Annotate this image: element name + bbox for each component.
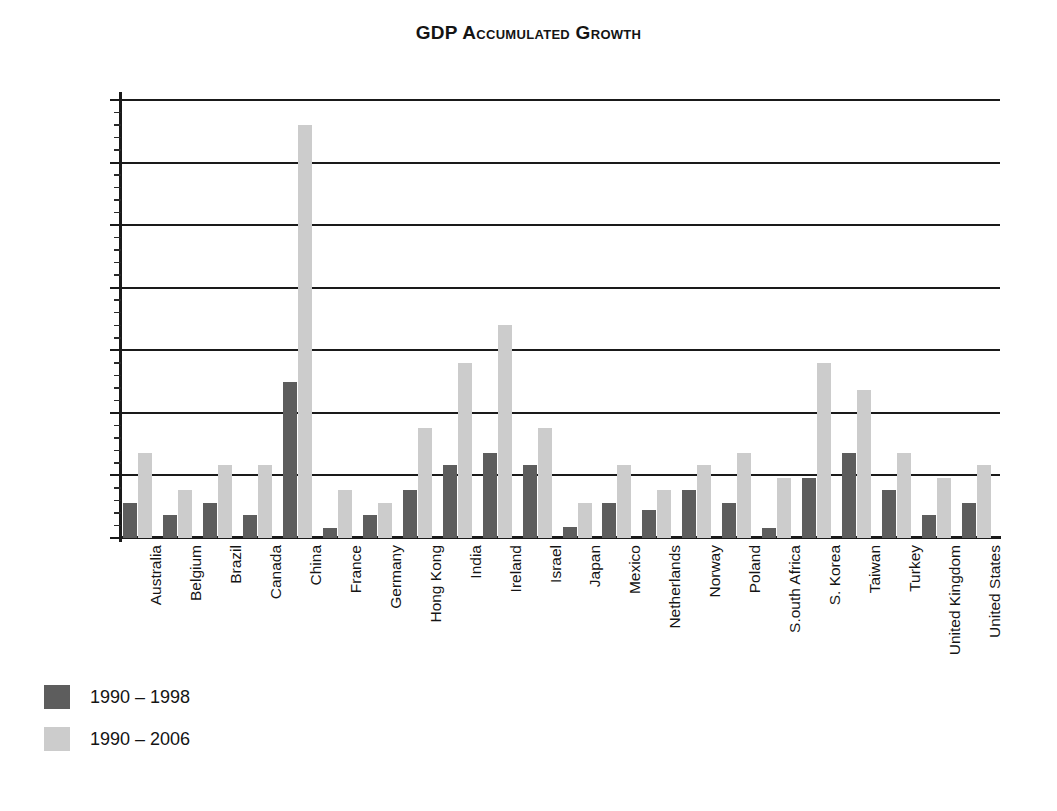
x-axis-tick-label: India [467,545,485,579]
bars-layer [121,100,1000,538]
bar [418,428,432,538]
bar [203,503,217,538]
y-axis-minor-tick [114,249,121,251]
x-axis-tick-label: Hong Kong [427,545,445,623]
y-axis-minor-tick [114,174,121,176]
bar [737,453,751,538]
bar [218,465,232,538]
bar [642,510,656,538]
y-axis-minor-tick [114,312,121,314]
bar [538,428,552,538]
bar [897,453,911,538]
y-axis-minor-tick [114,525,121,527]
y-axis-minor-tick [114,437,121,439]
bar [243,515,257,538]
bar-group [201,100,241,538]
bar [178,490,192,538]
bar [403,490,417,538]
x-axis-tick-label: Belgium [187,545,205,601]
bar-group [600,100,640,538]
bar [578,503,592,538]
bar [817,363,831,538]
bar [802,478,816,538]
y-axis-minor-tick [114,462,121,464]
bar-group [760,100,800,538]
y-axis-minor-tick [114,375,121,377]
bar [842,453,856,538]
x-axis-tick-label: Germany [387,545,405,609]
bar [882,490,896,538]
y-axis-major-tick [110,474,121,476]
bar [363,515,377,538]
bar [523,465,537,538]
bar-group [361,100,401,538]
y-axis-minor-tick [114,325,121,327]
y-axis-minor-tick [114,187,121,189]
bar-group [840,100,880,538]
legend-label: 1990 – 1998 [90,687,190,708]
y-axis-minor-tick [114,112,121,114]
bar-group [521,100,561,538]
bar-group [920,100,960,538]
bar-group [720,100,760,538]
chart-legend: 1990 – 19981990 – 2006 [44,676,190,760]
bar-group [441,100,481,538]
y-axis-major-tick [110,287,121,289]
y-axis-minor-tick [114,274,121,276]
y-axis-major-tick [110,349,121,351]
bar-group [161,100,201,538]
plot-area [121,100,1000,538]
bar [378,503,392,538]
y-axis-major-tick [110,99,121,101]
bar-group [640,100,680,538]
bar [922,515,936,538]
y-axis-minor-tick [114,137,121,139]
y-axis-minor-tick [114,500,121,502]
bar [722,503,736,538]
y-axis-minor-tick [114,212,121,214]
x-axis-tick-label: Poland [746,545,764,593]
x-axis-tick-labels: AustraliaBelgiumBrazilCanadaChinaFranceG… [121,545,1000,675]
bar [962,503,976,538]
bar [657,490,671,538]
x-axis-tick-label: Australia [147,545,165,605]
bar [617,465,631,538]
bar [682,490,696,538]
x-axis-tick-label: Canada [267,545,285,599]
y-axis-minor-tick [114,149,121,151]
bar [298,125,312,538]
legend-label: 1990 – 2006 [90,729,190,750]
y-axis-minor-tick [114,199,121,201]
y-axis-minor-tick [114,124,121,126]
bar [483,453,497,538]
x-axis-tick-label: United States [986,545,1004,638]
bar [338,490,352,538]
y-axis-minor-tick [114,450,121,452]
bar [123,503,137,538]
legend-item: 1990 – 2006 [44,718,190,760]
x-axis-tick-label: United Kingdom [946,545,964,655]
bar-group [561,100,601,538]
bar [498,325,512,538]
bar [857,390,871,538]
bar-group [241,100,281,538]
x-axis-tick-label: Ireland [507,545,525,592]
x-axis-tick-label: Israel [547,545,565,583]
bar [777,478,791,538]
y-axis-minor-tick [114,262,121,264]
bar-group [680,100,720,538]
y-axis-minor-tick [114,299,121,301]
bar [258,465,272,538]
y-axis-minor-tick [114,487,121,489]
bar-group [121,100,161,538]
bar [458,363,472,538]
y-axis-major-tick [110,224,121,226]
x-axis-tick-label: Netherlands [666,545,684,629]
bar [283,382,297,538]
x-axis-tick-label: Turkey [906,545,924,592]
y-axis-major-tick [110,412,121,414]
bar-group [481,100,521,538]
bar [937,478,951,538]
x-axis-tick-label: S.outh Africa [786,545,804,633]
legend-swatch [44,727,70,751]
